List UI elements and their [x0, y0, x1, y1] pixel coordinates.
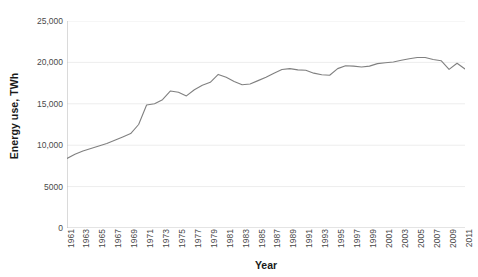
- x-tick-label: 1999: [368, 229, 378, 248]
- x-axis-tick-labels: 1961196319651967196919711973197519771979…: [67, 229, 465, 259]
- x-tick-label: 1971: [145, 229, 155, 248]
- x-tick-label: 2001: [384, 229, 394, 248]
- y-axis-title-label: Energy use, TWh: [8, 73, 20, 160]
- x-tick-label: 1983: [241, 229, 251, 248]
- x-tick-label: 1963: [81, 229, 91, 248]
- x-tick-label: 1995: [336, 229, 346, 248]
- x-tick-label: 1979: [209, 229, 219, 248]
- x-tick-label: 2011: [464, 229, 474, 247]
- plot-area: [67, 21, 465, 228]
- y-tick-label: 25,000: [25, 16, 63, 26]
- x-tick-label: 1985: [257, 229, 267, 248]
- y-axis-tick-labels: 0500010,00015,00020,00025,000: [22, 0, 63, 232]
- x-tick-label: 1969: [129, 229, 139, 248]
- x-tick-label: 1997: [352, 229, 362, 248]
- x-tick-label: 1987: [272, 229, 282, 248]
- x-tick-label: 1973: [161, 229, 171, 248]
- chart-figure: Energy use, TWh 0500010,00015,00020,0002…: [0, 0, 478, 277]
- x-tick-label: 1989: [288, 229, 298, 248]
- x-tick-label: 1975: [177, 229, 187, 248]
- y-tick-label: 5000: [25, 182, 63, 192]
- gridlines: [67, 21, 465, 228]
- x-tick-label: 1981: [225, 229, 235, 248]
- data-series-line: [67, 57, 465, 158]
- x-tick-label: 2007: [432, 229, 442, 248]
- x-tick-label: 1961: [66, 229, 76, 248]
- x-tick-label: 1965: [97, 229, 107, 248]
- y-tick-label: 0: [25, 223, 63, 233]
- x-tick-label: 1967: [113, 229, 123, 248]
- x-tick-label: 2003: [400, 229, 410, 248]
- x-axis-title-label: Year: [255, 259, 277, 271]
- x-tick-label: 1993: [320, 229, 330, 248]
- x-tick-label: 1991: [304, 229, 314, 248]
- y-tick-label: 15,000: [25, 99, 63, 109]
- line-chart-svg: [67, 21, 465, 228]
- x-axis-title: Year: [67, 259, 465, 271]
- x-tick-label: 2005: [416, 229, 426, 248]
- y-tick-label: 10,000: [25, 140, 63, 150]
- x-tick-label: 1977: [193, 229, 203, 248]
- y-tick-label: 20,000: [25, 57, 63, 67]
- x-tick-label: 2009: [448, 229, 458, 248]
